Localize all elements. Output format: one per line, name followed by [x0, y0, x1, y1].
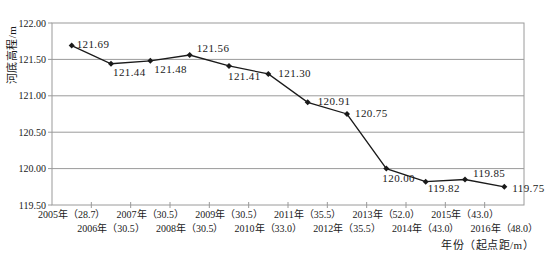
data-point-marker: [187, 52, 193, 58]
data-label: 120.91: [318, 95, 351, 107]
data-point-marker: [501, 184, 507, 190]
y-axis-title-text: 河底高程/m: [3, 26, 19, 85]
y-tick-label: 121.50: [19, 54, 47, 65]
x-tick-label: 2010年（33.0）: [235, 222, 303, 234]
data-label: 119.82: [428, 182, 460, 194]
x-tick-label: 2011年（35.5）: [274, 208, 341, 220]
data-label: 121.30: [278, 67, 311, 79]
data-label: 120.00: [382, 172, 415, 184]
data-label: 120.75: [355, 107, 388, 119]
data-point-marker: [462, 177, 468, 183]
x-tick-label: 2015年（43.0）: [431, 208, 499, 220]
x-tick-label: 2013年（52.0）: [353, 208, 421, 220]
data-label: 121.44: [113, 66, 146, 78]
x-tick-label: 2005年（28.7）: [38, 208, 106, 220]
x-tick-label: 2016年（48.0）: [471, 222, 539, 234]
x-axis-title: 年份（起点距/m）: [441, 236, 534, 252]
line-chart-plot: 122.00121.50121.00120.50120.00119.50121.…: [0, 0, 551, 258]
plot-border: [52, 23, 524, 205]
x-tick-label: 2009年（30.5）: [195, 208, 263, 220]
data-point-marker: [69, 43, 75, 49]
y-tick-label: 122.00: [19, 18, 47, 29]
riverbed-elevation-chart: 122.00121.50121.00120.50120.00119.50121.…: [0, 0, 551, 258]
data-point-marker: [226, 63, 232, 69]
x-tick-label: 2012年（35.5）: [313, 222, 381, 234]
y-tick-label: 120.00: [19, 163, 47, 174]
data-label: 121.56: [197, 42, 230, 54]
x-tick-label: 2014年（43.0）: [392, 222, 460, 234]
data-point-marker: [147, 58, 153, 64]
data-label: 121.69: [77, 38, 110, 50]
data-label: 121.41: [228, 70, 261, 82]
x-tick-label: 2006年（30.5）: [77, 222, 145, 234]
y-tick-label: 121.00: [19, 90, 47, 101]
x-tick-label: 2007年（30.5）: [117, 208, 185, 220]
x-tick-label: 2008年（30.5）: [156, 222, 224, 234]
data-label: 119.75: [512, 182, 544, 194]
y-tick-label: 120.50: [19, 127, 47, 138]
data-label: 119.85: [473, 167, 505, 179]
data-label: 121.48: [154, 63, 187, 75]
